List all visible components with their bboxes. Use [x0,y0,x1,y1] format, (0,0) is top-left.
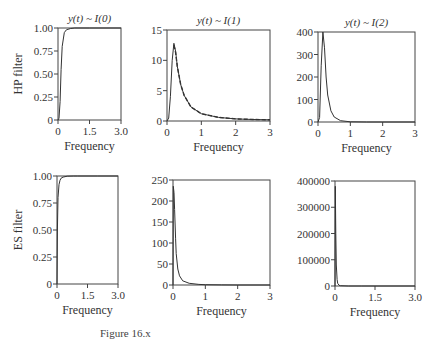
figure-caption: Figure 16.x [100,327,151,339]
x-tick-label: 0 [55,125,61,137]
y-tick-label: 0.75 [34,45,54,57]
series-line [58,28,121,120]
series-line [335,186,415,286]
panel-title: y(t) ~ I(0) [67,12,112,25]
x-tick-label: 1.5 [83,125,97,137]
x-tick-label: 0 [54,289,60,301]
x-axis-label: Frequency [341,141,392,155]
y-tick-label: 0.50 [33,224,53,236]
y-tick-label: 0.50 [34,68,54,80]
y-tick-label: 0.75 [33,197,53,209]
y-tick-label: 200 [297,71,314,83]
y-tick-label: 0 [325,280,331,292]
series-line [173,186,270,285]
x-tick-label: 3.0 [114,125,128,137]
x-tick-label: 3.0 [111,289,125,301]
y-tick-label: 100 [152,237,169,249]
y-tick-label: 100000 [297,254,331,266]
y-tick-label: 50 [157,258,169,270]
y-tick-label: 0 [48,114,54,126]
y-tick-label: 10 [151,54,163,66]
series-line [167,43,270,121]
y-tick-label: 300000 [297,201,331,213]
y-tick-label: 200000 [297,228,331,240]
y-tick-label: 1.00 [33,170,53,182]
series-line [57,176,118,284]
x-tick-label: 3 [412,127,418,139]
y-tick-label: 400 [297,26,314,38]
x-tick-label: 2 [233,126,239,138]
y-tick-label: 5 [157,85,163,97]
x-tick-label: 1.5 [81,289,95,301]
plot-frame [335,181,415,286]
y-tick-label: 0 [163,279,169,291]
y-tick-label: 0 [47,278,53,290]
x-tick-label: 1 [199,126,205,138]
y-tick-label: 0.25 [34,91,54,103]
y-tick-label: 400000 [297,175,331,187]
series-line [174,45,270,120]
panel-title: y(t) ~ I(2) [344,16,389,29]
x-tick-label: 3.0 [408,291,422,303]
x-tick-label: 1 [203,290,209,302]
x-tick-label: 3 [267,126,273,138]
y-tick-label: 300 [297,49,314,61]
x-tick-label: 1 [348,127,354,139]
x-tick-label: 0 [164,126,170,138]
y-tick-label: 15 [151,24,163,36]
plot-frame [318,32,415,122]
x-tick-label: 2 [380,127,386,139]
row-label-es: ES filter [11,210,25,250]
x-axis-label: Frequency [350,305,401,319]
x-axis-label: Frequency [64,139,115,153]
x-tick-label: 2 [235,290,241,302]
y-tick-label: 0 [308,116,314,128]
x-axis-label: Frequency [193,140,244,154]
x-axis-label: Frequency [196,304,247,318]
row-label-hp: HP filter [11,53,25,94]
plot-frame [167,30,270,121]
series-line [318,32,415,122]
plot-frame [58,28,121,120]
x-tick-label: 1.5 [368,291,382,303]
x-tick-label: 0 [332,291,338,303]
y-tick-label: 150 [152,216,169,228]
y-tick-label: 0 [157,115,163,127]
y-tick-label: 250 [152,174,169,186]
y-tick-label: 0.25 [33,251,53,263]
x-tick-label: 0 [315,127,321,139]
x-tick-label: 3 [267,290,273,302]
plot-frame [57,176,118,284]
y-tick-label: 1.00 [34,22,54,34]
x-axis-label: Frequency [62,303,113,317]
y-tick-label: 100 [297,94,314,106]
panel-title: y(t) ~ I(1) [196,14,241,27]
y-tick-label: 200 [152,195,169,207]
x-tick-label: 0 [170,290,176,302]
plot-frame [173,180,270,285]
